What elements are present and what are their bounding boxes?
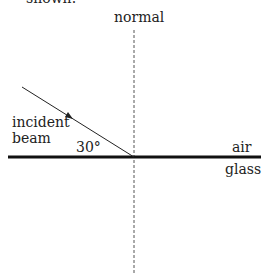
- header-fragment: shown.: [26, 0, 76, 6]
- air-label: air: [232, 139, 252, 155]
- normal-label: normal: [114, 9, 164, 25]
- angle-label: 30°: [76, 139, 101, 155]
- incident-label: incident: [12, 114, 70, 130]
- beam-label: beam: [12, 130, 51, 146]
- glass-label: glass: [225, 161, 261, 177]
